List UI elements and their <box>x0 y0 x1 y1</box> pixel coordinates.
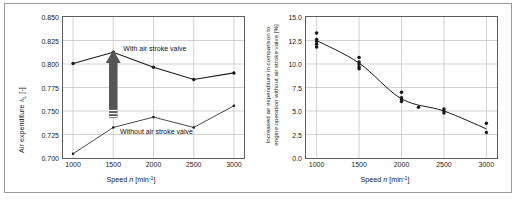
x-axis-title-right-units: [min <box>389 175 403 184</box>
chart-panel-left: Air expenditure λL [-] 0.8500.8250.8000.… <box>4 3 258 193</box>
y-tick-label: 7.5 <box>292 84 302 91</box>
y-tick-label: 0.750 <box>41 108 59 115</box>
y-tick-label: 0.775 <box>41 84 59 91</box>
y-tick-label: 12.5 <box>288 37 302 44</box>
x-axis-title-left-units: [min <box>135 175 149 184</box>
x-tick-label: 3000 <box>479 161 495 168</box>
x-tick-label: 1500 <box>105 161 121 168</box>
x-tick-label: 2500 <box>436 161 452 168</box>
y-axis-title-left-text: Air expenditure <box>18 104 25 153</box>
improvement-arrow <box>106 50 121 118</box>
y-tick-label: 0.700 <box>41 155 59 162</box>
x-tick-labels-left: 10001500200025003000 <box>62 161 245 173</box>
x-axis-title-left-text: Speed <box>106 175 127 184</box>
y-axis-title-left-symbol: λ <box>18 99 25 103</box>
x-axis-title-left: Speed n [min-1] <box>4 175 258 184</box>
x-tick-label: 2000 <box>146 161 162 168</box>
chart-panel-right: Increased air expenditure in comparison … <box>258 3 512 193</box>
x-axis-title-left-symbol: n <box>129 175 133 184</box>
plot-area-left <box>62 16 245 159</box>
x-tick-label: 1000 <box>65 161 81 168</box>
x-tick-label: 2000 <box>394 161 410 168</box>
y-tick-labels-left: 0.8500.8250.8000.7750.7500.7250.700 <box>26 16 59 159</box>
y-tick-label: 0.825 <box>41 37 59 44</box>
y-tick-label: 5.0 <box>292 108 302 115</box>
y-tick-label: 15.0 <box>288 14 302 21</box>
plot-svg-left <box>63 17 244 158</box>
y-tick-labels-right: 15.012.510.07.55.02.50.0 <box>274 16 302 159</box>
y-tick-label: 0.725 <box>41 131 59 138</box>
x-tick-label: 1000 <box>309 161 325 168</box>
y-tick-label: 0.850 <box>41 14 59 21</box>
x-axis-title-right-text: Speed <box>360 175 381 184</box>
plot-area-right <box>305 16 498 159</box>
series-label-with-air-stroke-valve: With air stroke valve <box>123 45 186 52</box>
x-axis-title-right-exponent: -1 <box>403 175 408 181</box>
y-tick-label: 2.5 <box>292 131 302 138</box>
y-axis-title-left: Air expenditure λL [-] <box>18 87 25 153</box>
x-tick-label: 1500 <box>351 161 367 168</box>
x-axis-title-left-exponent: -1 <box>149 175 154 181</box>
y-tick-label: 0.0 <box>292 155 302 162</box>
y-axis-title-left-units: [-] <box>18 87 25 94</box>
y-tick-label: 10.0 <box>288 61 302 68</box>
y-axis-title-right-line1: Increased air expenditure in comparison … <box>264 11 272 159</box>
plot-svg-right <box>306 17 497 158</box>
x-axis-title-right-symbol: n <box>383 175 387 184</box>
series-label-without-air-stroke-valve: Without air stroke valve <box>120 128 193 135</box>
x-tick-label: 3000 <box>226 161 242 168</box>
figure-root: Air expenditure λL [-] 0.8500.8250.8000.… <box>0 0 518 202</box>
x-axis-title-right: Speed n [min-1] <box>258 175 512 184</box>
x-tick-label: 2500 <box>186 161 202 168</box>
y-tick-label: 0.800 <box>41 61 59 68</box>
x-tick-labels-right: 10001500200025003000 <box>305 161 498 173</box>
